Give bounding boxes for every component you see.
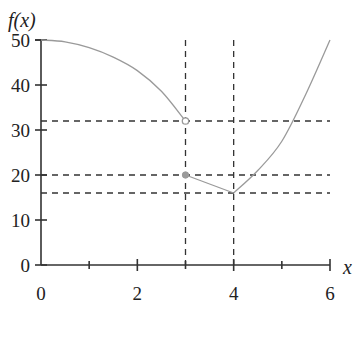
point-markers	[182, 118, 188, 178]
y-tick-label: 30	[11, 120, 30, 141]
function-curve-piece-2	[186, 175, 234, 193]
function-plot: f(x) x 01020304050 0246	[0, 0, 357, 342]
x-axis-title: x	[342, 256, 352, 278]
x-tick-label: 6	[325, 283, 335, 304]
y-tick-label: 10	[11, 210, 30, 231]
y-tick-label: 50	[11, 30, 30, 51]
x-tick-label: 2	[133, 283, 143, 304]
x-tick-label: 4	[229, 283, 239, 304]
y-axis-title: f(x)	[8, 9, 36, 32]
y-tick-label: 20	[11, 165, 30, 186]
chart-container: f(x) x 01020304050 0246	[0, 0, 357, 342]
function-curve-piece-3	[234, 40, 330, 193]
function-curve-piece-1	[41, 40, 186, 121]
axes	[35, 40, 330, 271]
y-tick-label: 0	[21, 255, 31, 276]
reference-dashed-lines	[41, 40, 330, 265]
open-circle-marker	[182, 118, 188, 124]
y-tick-label: 40	[11, 75, 30, 96]
x-tick-label: 0	[36, 283, 46, 304]
filled-point-marker	[182, 172, 188, 178]
